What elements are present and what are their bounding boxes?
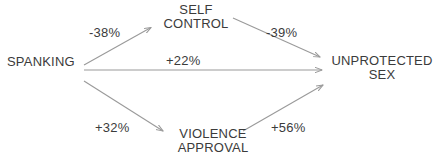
node-unprotected-sex: UNPROTECTED SEX <box>330 54 434 82</box>
node-violence-approval: VIOLENCE APPROVAL <box>170 127 256 155</box>
edge-label-self-control-to-unprotected-sex: -39% <box>266 26 297 40</box>
node-unprotected-sex-line2: SEX <box>330 68 434 82</box>
node-spanking: SPANKING <box>7 55 75 69</box>
node-self-control-line1: SELF <box>155 3 237 17</box>
node-violence-approval-line1: VIOLENCE <box>170 127 256 141</box>
edge-label-spanking-to-unprotected-sex: +22% <box>166 54 200 68</box>
edge-label-spanking-to-violence-approval: +32% <box>95 121 129 135</box>
node-self-control-line2: CONTROL <box>155 17 237 31</box>
node-unprotected-sex-line1: UNPROTECTED <box>330 54 434 68</box>
path-diagram: SPANKING SELF CONTROL VIOLENCE APPROVAL … <box>0 0 437 164</box>
edge-label-spanking-to-self-control: -38% <box>89 26 120 40</box>
node-self-control: SELF CONTROL <box>155 3 237 31</box>
edge-label-violence-approval-to-unprotected-sex: +56% <box>271 121 305 135</box>
node-violence-approval-line2: APPROVAL <box>170 141 256 155</box>
